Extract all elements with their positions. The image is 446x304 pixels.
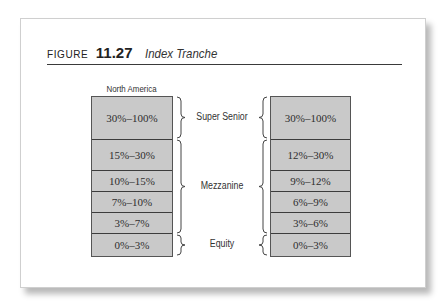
tranche-cell: 12%–30% (271, 140, 350, 171)
left-brace-icon (258, 139, 268, 234)
right-brace-icon (176, 234, 186, 256)
left-column-header: North America (96, 84, 167, 94)
tranche-cell: 10%–15% (92, 171, 172, 192)
label-mezzanine: Mezzanine (187, 180, 257, 191)
tranche-cell: 30%–100% (271, 97, 350, 140)
tranche-cell: 7%–10% (92, 192, 172, 213)
figure-caption: FIGURE 11.27 Index Tranche (47, 44, 402, 65)
figure-label: FIGURE (47, 49, 88, 60)
figure-number: 11.27 (96, 44, 133, 61)
tranche-cell: 3%–6% (271, 213, 350, 234)
tranche-cell: 3%–7% (92, 213, 172, 234)
left-brace-icon (258, 96, 268, 139)
tranche-cell: 9%–12% (271, 171, 350, 192)
left-brace-icon (258, 234, 268, 256)
tranche-cell: 30%–100% (92, 97, 172, 140)
label-super-senior: Super Senior (187, 111, 257, 122)
left-tranche-stack: 30%–100% 15%–30% 10%–15% 7%–10% 3%–7% 0%… (91, 96, 173, 257)
right-tranche-stack: 30%–100% 12%–30% 9%–12% 6%–9% 3%–6% 0%–3… (270, 96, 351, 257)
tranche-cell: 6%–9% (271, 192, 350, 213)
right-brace-icon (176, 139, 186, 234)
tranche-cell: 0%–3% (271, 234, 350, 256)
tranche-cell: 15%–30% (92, 140, 172, 171)
tranche-cell: 0%–3% (92, 234, 172, 256)
right-brace-icon (176, 96, 186, 139)
figure-title: Index Tranche (145, 46, 217, 61)
label-equity: Equity (187, 238, 257, 249)
